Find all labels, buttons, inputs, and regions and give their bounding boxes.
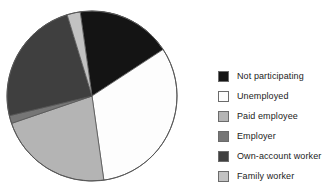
legend-swatch-employer xyxy=(218,131,229,142)
legend-swatch-family-worker xyxy=(218,171,229,182)
legend-item-unemployed[interactable]: Unemployed xyxy=(218,86,326,106)
legend-label-unemployed: Unemployed xyxy=(237,91,289,102)
legend-label-employer: Employer xyxy=(237,131,276,142)
pie-chart-figure: Not participating Unemployed Paid employ… xyxy=(0,0,326,194)
pie-plot-area xyxy=(0,0,195,194)
legend-label-paid-employee: Paid employee xyxy=(237,111,298,122)
legend-item-not-participating[interactable]: Not participating xyxy=(218,66,326,86)
legend-label-not-participating: Not participating xyxy=(237,71,304,82)
legend-item-family-worker[interactable]: Family worker xyxy=(218,166,326,186)
legend-label-own-account-worker: Own-account worker xyxy=(237,151,321,162)
legend-swatch-unemployed xyxy=(218,91,229,102)
legend-swatch-not-participating xyxy=(218,71,229,82)
legend-item-own-account-worker[interactable]: Own-account worker xyxy=(218,146,326,166)
legend-label-family-worker: Family worker xyxy=(237,171,294,182)
legend-item-employer[interactable]: Employer xyxy=(218,126,326,146)
legend-item-paid-employee[interactable]: Paid employee xyxy=(218,106,326,126)
pie-slice-group xyxy=(7,11,177,181)
legend-swatch-paid-employee xyxy=(218,111,229,122)
pie-svg xyxy=(0,0,195,194)
legend-swatch-own-account-worker xyxy=(218,151,229,162)
chart-legend: Not participating Unemployed Paid employ… xyxy=(218,66,326,186)
